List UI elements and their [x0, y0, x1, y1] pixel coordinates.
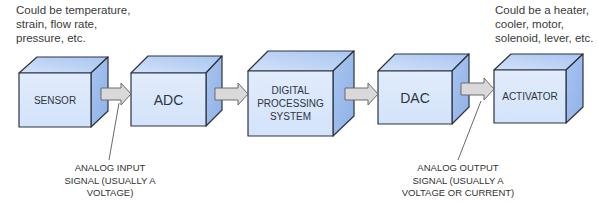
adc-label: ADC	[131, 73, 206, 126]
input-examples-note: Could be temperature, strain, flow rate,…	[16, 3, 130, 45]
sensor-label: SENSOR	[19, 73, 91, 127]
dsp-label: DIGITAL PROCESSING SYSTEM	[248, 71, 333, 136]
analog-output-annotation: ANALOG OUTPUT SIGNAL (USUALLY A VOLTAGE …	[393, 162, 523, 200]
activator-label: ACTIVATOR	[494, 70, 566, 123]
analog-input-leader-line	[109, 103, 119, 160]
dac-label: DAC	[378, 71, 452, 124]
analog-input-annotation: ANALOG INPUT SIGNAL (USUALLY A VOLTAGE)	[52, 162, 168, 200]
output-examples-note: Could be a heater, cooler, motor, soleno…	[495, 3, 593, 45]
